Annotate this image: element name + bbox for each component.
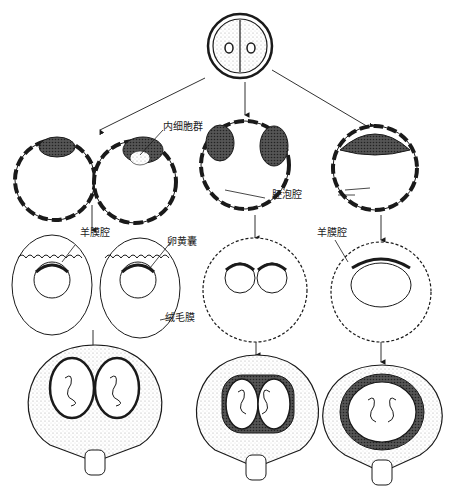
blastocyst-2: [94, 137, 176, 223]
label-inner-cell-mass: 内细胞群: [163, 122, 203, 132]
chorionic-sac-3: [203, 238, 307, 342]
uterus-separate-placentas: [28, 345, 162, 475]
blastocyst-1: [15, 137, 95, 220]
blastocyst-4: [333, 126, 417, 210]
uterus-shared-amnion: [323, 365, 442, 485]
chorionic-sac-2: [100, 238, 180, 338]
chorionic-sac-4: [331, 242, 431, 342]
label-chorion: 绒毛膜: [165, 313, 195, 323]
label-amniotic-cavity-left: 羊膜腔: [80, 228, 110, 238]
label-yolk-sac: 卵黄囊: [167, 237, 197, 247]
label-blastocoel: 胚泡腔: [272, 190, 302, 200]
twin-development-diagram: [0, 0, 452, 501]
two-cell-zygote: [208, 14, 272, 78]
label-amniotic-cavity-right: 羊膜腔: [317, 228, 347, 238]
chorionic-sac-1: [12, 235, 92, 335]
uterus-shared-placenta-separate-amnion: [196, 355, 318, 480]
